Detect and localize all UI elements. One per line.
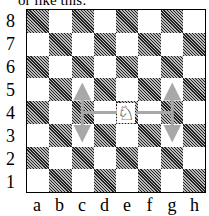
square-c2 (72, 147, 94, 170)
rank-label-7: 7 (6, 35, 15, 53)
square-g7 (161, 33, 183, 56)
square-d2 (94, 147, 116, 170)
square-d6 (94, 56, 116, 79)
square-c6 (72, 56, 94, 79)
file-label-h: h (184, 196, 206, 214)
square-f4 (138, 101, 160, 124)
square-e8 (116, 10, 138, 33)
square-h3 (183, 124, 205, 147)
rank-label-2: 2 (6, 150, 15, 168)
square-h6 (183, 56, 205, 79)
white-knight-icon: ♘ (117, 103, 135, 123)
square-d3 (94, 124, 116, 147)
square-h1 (183, 169, 205, 192)
square-a7 (27, 33, 49, 56)
square-c1 (72, 169, 94, 192)
caption-text: or like this: (18, 0, 86, 9)
rank-label-6: 6 (6, 58, 15, 76)
file-label-f: f (139, 196, 161, 214)
square-b4 (49, 101, 71, 124)
file-label-c: c (71, 196, 93, 214)
square-g6 (161, 56, 183, 79)
square-d8 (94, 10, 116, 33)
file-label-b: b (49, 196, 71, 214)
square-g3 (161, 124, 183, 147)
square-g8 (161, 10, 183, 33)
square-h7 (183, 33, 205, 56)
square-g5 (161, 78, 183, 101)
square-d7 (94, 33, 116, 56)
square-c7 (72, 33, 94, 56)
square-d5 (94, 78, 116, 101)
square-e2 (116, 147, 138, 170)
square-f3 (138, 124, 160, 147)
square-e3 (116, 124, 138, 147)
square-a5 (27, 78, 49, 101)
square-b2 (49, 147, 71, 170)
square-b7 (49, 33, 71, 56)
square-d1 (94, 169, 116, 192)
rank-label-3: 3 (6, 127, 15, 145)
square-c3 (72, 124, 94, 147)
square-e1 (116, 169, 138, 192)
square-h5 (183, 78, 205, 101)
square-g2 (161, 147, 183, 170)
square-f2 (138, 147, 160, 170)
square-c5 (72, 78, 94, 101)
square-e5 (116, 78, 138, 101)
square-a8 (27, 10, 49, 33)
file-label-a: a (26, 196, 48, 214)
square-b1 (49, 169, 71, 192)
square-a6 (27, 56, 49, 79)
square-h2 (183, 147, 205, 170)
square-h4 (183, 101, 205, 124)
square-g1 (161, 169, 183, 192)
square-b3 (49, 124, 71, 147)
file-label-e: e (116, 196, 138, 214)
square-a2 (27, 147, 49, 170)
rank-label-4: 4 (6, 104, 15, 122)
square-b6 (49, 56, 71, 79)
square-h8 (183, 10, 205, 33)
rank-label-1: 1 (6, 173, 15, 191)
square-f1 (138, 169, 160, 192)
square-f6 (138, 56, 160, 79)
file-label-g: g (161, 196, 183, 214)
square-c8 (72, 10, 94, 33)
square-a4 (27, 101, 49, 124)
square-b5 (49, 78, 71, 101)
square-d4 (94, 101, 116, 124)
chess-board (26, 9, 206, 193)
file-label-d: d (94, 196, 116, 214)
square-a1 (27, 169, 49, 192)
square-e6 (116, 56, 138, 79)
square-c4 (72, 101, 94, 124)
square-f8 (138, 10, 160, 33)
square-b8 (49, 10, 71, 33)
square-f5 (138, 78, 160, 101)
square-a3 (27, 124, 49, 147)
square-f7 (138, 33, 160, 56)
rank-label-5: 5 (6, 81, 15, 99)
square-g4 (161, 101, 183, 124)
square-e7 (116, 33, 138, 56)
rank-label-8: 8 (6, 12, 15, 30)
